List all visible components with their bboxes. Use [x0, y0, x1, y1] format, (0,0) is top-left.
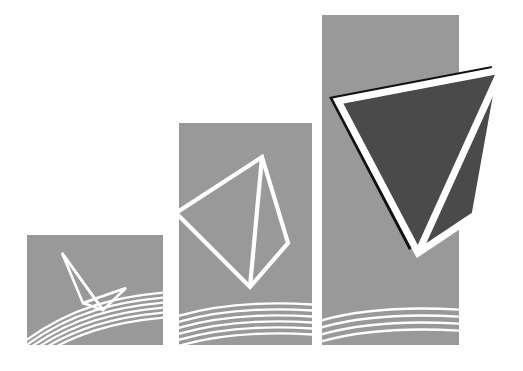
bar-group-medium: [172, 123, 320, 348]
logo-artwork: [0, 0, 523, 371]
bar-rect-small: [27, 235, 163, 345]
logo-canvas: [0, 0, 523, 371]
